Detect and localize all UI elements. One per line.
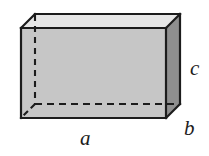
prism-figure: a b c [0, 0, 209, 156]
right-face [166, 14, 180, 118]
top-face [21, 14, 180, 28]
dimension-label-a: a [80, 128, 91, 149]
dimension-label-c: c [190, 58, 199, 79]
dimension-label-b: b [184, 118, 195, 139]
prism-drawing [0, 0, 209, 156]
